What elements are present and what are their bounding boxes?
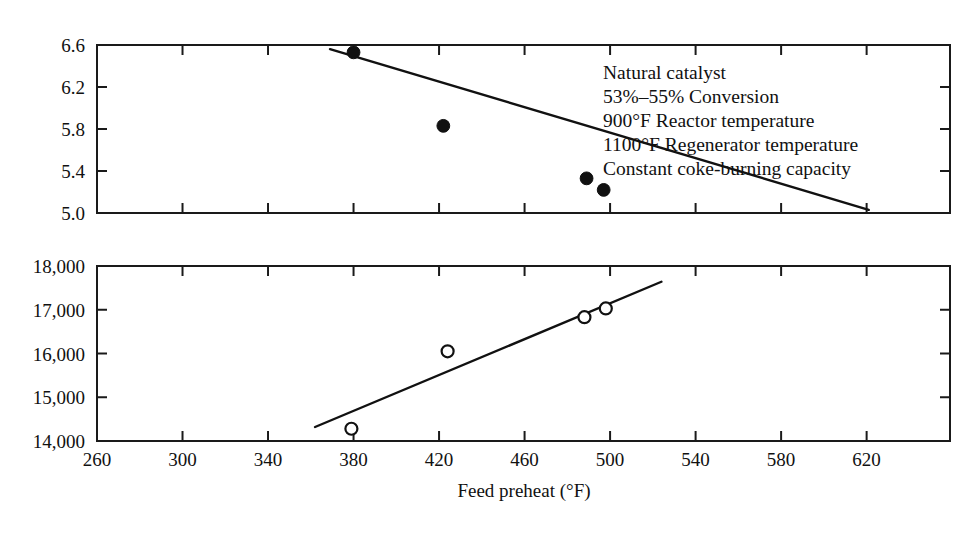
x-axis-tick-label: 420 [425,449,454,470]
y-axis-tick-label: 15,000 [33,387,85,408]
data-point [442,345,454,357]
y-axis-tick-label: 14,000 [33,431,85,452]
lower-panel-data-points [345,302,611,434]
data-point [437,119,450,132]
chart-svg: 5.05.45.86.26.6 Natural catalyst53%–55% … [0,0,979,536]
y-axis-tick-label: 6.2 [61,77,85,98]
x-axis-tick-label: 300 [168,449,197,470]
y-axis-tick-label: 5.4 [61,161,85,182]
lower-panel-x-ticks [97,266,867,441]
upper-panel-frame [97,45,950,213]
y-axis-tick-label: 5.0 [61,203,85,224]
y-axis-tick-label: 5.8 [61,119,85,140]
y-axis-tick-label: 6.6 [61,35,85,56]
x-axis-tick-label: 380 [339,449,368,470]
x-axis-tick-label: 620 [852,449,881,470]
annotation-line: Constant coke-burning capacity [603,158,851,179]
x-axis-tick-label: 260 [83,449,112,470]
data-point [578,311,590,323]
lower-panel: 14,00015,00016,00017,00018,000 260300340… [33,256,950,502]
annotation-line: 1100°F Regenerator temperature [603,134,858,155]
x-axis-tick-label: 540 [681,449,710,470]
x-axis-tick-label: 500 [596,449,625,470]
y-axis-tick-label: 16,000 [33,344,85,365]
y-axis-tick-label: 18,000 [33,256,85,277]
data-point [597,184,610,197]
x-axis-tick-labels: 260300340380420460500540580620 [83,449,881,470]
annotation-text-block: Natural catalyst53%–55% Conversion900°F … [603,62,858,179]
data-point [347,46,360,59]
upper-panel-y-tick-labels: 5.05.45.86.26.6 [61,35,85,224]
annotation-line: Natural catalyst [603,62,726,83]
x-axis-tick-label: 340 [254,449,283,470]
y-axis-tick-label: 17,000 [33,300,85,321]
annotation-line: 900°F Reactor temperature [603,110,814,131]
x-axis-tick-label: 460 [510,449,539,470]
data-point [580,172,593,185]
data-point [345,423,357,435]
x-axis-tick-label: 580 [767,449,796,470]
lower-panel-y-tick-labels: 14,00015,00016,00017,00018,000 [33,256,85,452]
x-axis-title: Feed preheat (°F) [457,480,590,502]
data-point [600,302,612,314]
lower-panel-frame [97,266,950,441]
upper-panel: 5.05.45.86.26.6 [61,35,950,224]
lower-panel-y-ticks [97,310,950,398]
annotation-line: 53%–55% Conversion [603,86,779,107]
chart-figure: 5.05.45.86.26.6 Natural catalyst53%–55% … [0,0,979,536]
